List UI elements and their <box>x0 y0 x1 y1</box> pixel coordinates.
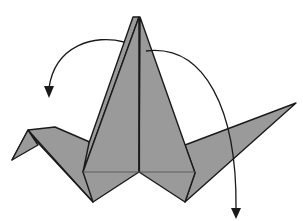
body-right <box>139 17 195 202</box>
tail-shape <box>185 103 296 202</box>
arrowhead-left-icon <box>44 86 54 98</box>
body-left <box>83 17 139 202</box>
crane-svg <box>0 0 303 221</box>
crane-diagram: Origami crane folding step <box>0 0 303 221</box>
arrowhead-right-icon <box>231 208 241 219</box>
